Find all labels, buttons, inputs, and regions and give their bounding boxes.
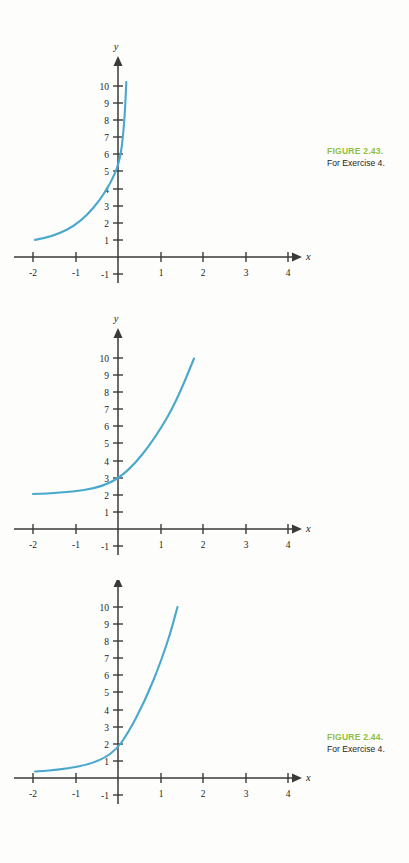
figure-block-3: -2 -1 1 2 3 4 -1 1 2 3 4 5 6 7 8 [0,580,409,863]
y-tick-label-2: 2 [104,219,109,229]
x-tick-label-4: 4 [286,789,291,799]
y-tick-label-7: 7 [104,654,109,664]
x-axis-label: x [305,772,311,783]
x-tick-label--2: -2 [29,268,37,278]
y-tick-label--1: -1 [101,542,109,552]
y-tick-label-5: 5 [104,688,109,698]
y-tick-label-8: 8 [104,116,109,126]
figure-block-1: -2 -1 1 2 3 4 -1 1 2 3 4 5 6 7 [0,0,409,300]
y-tick-label-4: 4 [104,457,109,467]
y-tick-label-1: 1 [104,508,109,518]
x-tick-label-1: 1 [159,789,164,799]
x-tick-label-1: 1 [159,540,164,550]
plot-area-2: -2 -1 1 2 3 4 -1 1 2 3 4 5 6 7 8 [0,300,320,580]
figure-caption-subtitle: For Exercise 4. [327,158,409,169]
x-tick-label-2: 2 [201,268,206,278]
y-tick-label-9: 9 [104,99,109,109]
x-axis-arrow [292,253,302,262]
figure-block-2: -2 -1 1 2 3 4 -1 1 2 3 4 5 6 7 8 [0,300,409,580]
x-tick-label-4: 4 [286,540,291,550]
x-tick-label-3: 3 [244,789,249,799]
exponential-curve [35,82,126,240]
y-tick-label-8: 8 [104,637,109,647]
y-tick-label-2: 2 [104,740,109,750]
x-tick-label-2: 2 [201,789,206,799]
y-tick-label--1: -1 [101,270,109,280]
x-tick-label--1: -1 [72,268,80,278]
y-tick-label-4: 4 [104,706,109,716]
y-tick-label-1: 1 [104,757,109,767]
y-tick-label-2: 2 [104,491,109,501]
x-axis-label: x [305,251,311,262]
y-tick-label-10: 10 [100,354,110,364]
x-tick-label-1: 1 [159,268,164,278]
y-axis-arrow [114,328,123,338]
y-tick-label-5: 5 [104,439,109,449]
x-tick-label-4: 4 [286,268,291,278]
figure-caption-1: FIGURE 2.43. For Exercise 4. [327,146,409,168]
chart-svg-1: -2 -1 1 2 3 4 -1 1 2 3 4 5 6 7 [0,0,320,300]
figure-caption-title: FIGURE 2.43. [327,146,409,157]
x-tick-label--1: -1 [72,789,80,799]
x-tick-label-3: 3 [244,268,249,278]
y-axis-label: y [113,41,119,52]
x-tick-label-2: 2 [201,540,206,550]
y-tick-label-10: 10 [100,82,110,92]
y-tick-label-6: 6 [104,150,109,160]
y-tick-label-7: 7 [104,133,109,143]
y-axis-arrow [114,580,123,587]
y-tick-label-10: 10 [100,603,110,613]
y-tick-label-1: 1 [104,236,109,246]
x-tick-label--1: -1 [72,540,80,550]
y-tick-label-6: 6 [104,422,109,432]
x-axis-arrow [292,525,302,534]
plot-area-3: -2 -1 1 2 3 4 -1 1 2 3 4 5 6 7 8 [0,580,320,863]
y-axis-arrow [114,56,123,66]
y-tick-label-3: 3 [104,202,109,212]
chart-svg-3: -2 -1 1 2 3 4 -1 1 2 3 4 5 6 7 8 [0,580,320,863]
x-tick-label--2: -2 [29,540,37,550]
y-tick-label-5: 5 [104,167,109,177]
plot-area-1: -2 -1 1 2 3 4 -1 1 2 3 4 5 6 7 [0,0,320,300]
y-tick-label--1: -1 [101,791,109,801]
x-tick-label-3: 3 [244,540,249,550]
y-axis-label: y [113,313,119,324]
y-tick-label-3: 3 [104,723,109,733]
x-axis-label: x [305,523,311,534]
y-tick-label-6: 6 [104,671,109,681]
x-axis-arrow [292,774,302,783]
y-tick-label-9: 9 [104,371,109,381]
y-tick-label-9: 9 [104,620,109,630]
x-tick-label--2: -2 [29,789,37,799]
chart-svg-2: -2 -1 1 2 3 4 -1 1 2 3 4 5 6 7 8 [0,300,320,580]
y-tick-label-7: 7 [104,405,109,415]
y-tick-label-8: 8 [104,388,109,398]
